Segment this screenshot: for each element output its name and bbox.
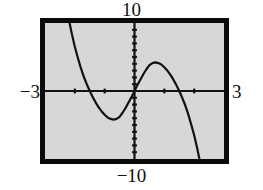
graphing-calculator-figure: 10 −3 3 −10 bbox=[0, 0, 263, 190]
window-label-xmax: 3 bbox=[232, 82, 260, 101]
window-label-ymin: −10 bbox=[0, 166, 263, 185]
window-label-xmin: −3 bbox=[4, 82, 40, 101]
plot-area bbox=[45, 23, 224, 159]
calculator-screen bbox=[40, 18, 229, 164]
window-label-ymax: 10 bbox=[0, 0, 263, 19]
